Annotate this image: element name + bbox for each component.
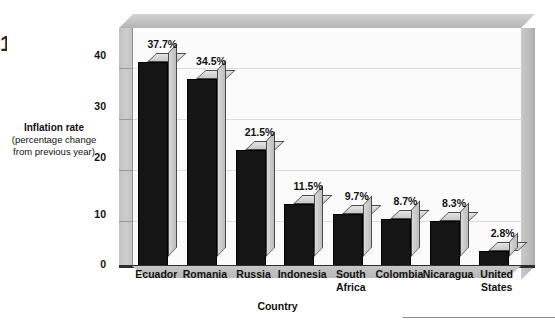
figure-number-glyph: 1 <box>0 33 7 54</box>
bar-nicaragua <box>430 221 460 266</box>
bar-side-face <box>314 185 323 257</box>
bar-side-face <box>168 43 177 257</box>
bar-top-face <box>293 195 333 204</box>
y-axis-label-line-2: (percentage change <box>2 134 106 146</box>
bar-front-face <box>187 79 217 266</box>
bar-top-face <box>439 212 479 221</box>
bar-colombia <box>381 219 411 266</box>
bar-front-face <box>284 204 314 266</box>
y-axis-tick-30 <box>119 119 132 120</box>
bar-top-face <box>342 205 382 214</box>
x-axis-category-line: United <box>463 268 531 281</box>
bar-front-face <box>430 221 460 266</box>
gridline-40 <box>133 68 522 69</box>
bar-top-face <box>245 141 285 150</box>
y-tick-label-0: 0 <box>84 258 106 270</box>
bar-value-label: 37.7% <box>139 38 185 50</box>
x-axis-title: Country <box>0 300 555 312</box>
x-axis-category-label: UnitedStates <box>463 268 531 293</box>
bar-side-face <box>411 200 420 257</box>
bar-united-states <box>479 251 509 266</box>
plot-back-wall-top-bevel <box>119 14 535 28</box>
bar-front-face <box>479 251 509 266</box>
bar-romania <box>187 79 217 266</box>
bar-south-africa <box>333 214 363 266</box>
bar-value-label: 34.5% <box>188 55 234 67</box>
y-tick-label-40: 40 <box>84 49 106 61</box>
y-axis-tick-20 <box>119 170 132 171</box>
bar-front-face <box>138 62 168 266</box>
bar-value-label: 9.7% <box>334 190 380 202</box>
bar-side-face <box>460 202 469 257</box>
y-tick-label-10: 10 <box>84 208 106 220</box>
bar-value-label: 8.7% <box>382 195 428 207</box>
chart-plot-frame: 37.7%34.5%21.5%11.5%9.7%8.7%8.3%2.8% <box>119 14 535 280</box>
bar-ecuador <box>138 62 168 266</box>
y-axis-tick-40 <box>119 68 132 69</box>
bar-side-face <box>266 131 275 257</box>
bar-top-face <box>196 70 236 79</box>
bar-side-face <box>217 61 226 257</box>
y-tick-label-20: 20 <box>84 151 106 163</box>
x-axis-category-line: Africa <box>317 281 385 294</box>
bar-value-label: 8.3% <box>431 197 477 209</box>
bar-value-label: 11.5% <box>285 180 331 192</box>
bar-value-label: 21.5% <box>237 126 283 138</box>
y-tick-label-30: 30 <box>84 100 106 112</box>
bar-front-face <box>381 219 411 266</box>
chart-canvas: 37.7%34.5%21.5%11.5%9.7%8.7%8.3%2.8% <box>132 28 521 266</box>
bar-russia <box>236 150 266 266</box>
bar-front-face <box>236 150 266 266</box>
bar-front-face <box>333 214 363 266</box>
page-bottom-rule <box>403 317 555 318</box>
y-axis-label-line-1: Inflation rate <box>2 122 106 134</box>
bar-indonesia <box>284 204 314 266</box>
bar-side-face <box>363 195 372 257</box>
plot-left-wall <box>119 28 132 266</box>
bar-value-label: 2.8% <box>480 227 526 239</box>
y-axis-tick-10 <box>119 221 132 222</box>
x-axis-category-line: States <box>463 281 531 294</box>
